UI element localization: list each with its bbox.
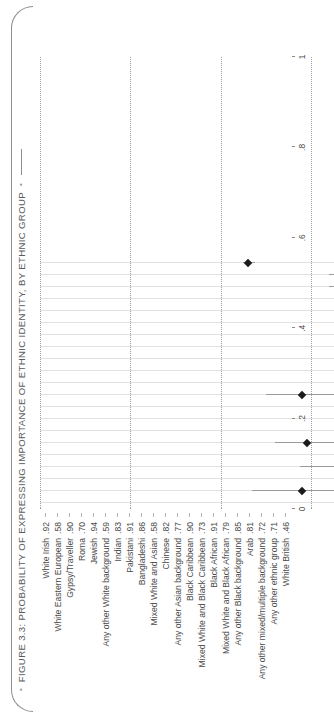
category-rowline xyxy=(40,262,334,263)
category-value-label: .77 xyxy=(173,522,183,534)
category-label-row: Any other Black background.85 xyxy=(232,513,243,709)
category-rowline xyxy=(40,334,334,335)
category-value-label: .90 xyxy=(65,522,75,534)
x-axis: 0.2.4.6.81 xyxy=(292,57,318,509)
category-value-label: .58 xyxy=(149,522,159,534)
category-label-row: White Irish.92 xyxy=(40,513,51,709)
category-label-row: White Eastern European.58 xyxy=(52,513,63,709)
category-rowline xyxy=(40,346,334,347)
category-rowline xyxy=(40,370,334,371)
category-label-row: Bangladeshi.86 xyxy=(136,513,147,709)
category-tick xyxy=(225,513,226,517)
category-value-label: .58 xyxy=(53,522,63,534)
axis-tick xyxy=(292,418,295,419)
category-value-label: .72 xyxy=(257,522,267,534)
category-tick xyxy=(57,513,58,517)
category-value-label: .91 xyxy=(125,522,135,534)
category-tick xyxy=(93,513,94,517)
category-rowline xyxy=(40,454,334,455)
category-label-row: Chinese.82 xyxy=(160,513,171,709)
category-name: Mixed White and Black Caribbean xyxy=(197,538,207,667)
category-tick xyxy=(45,513,46,517)
point-estimate-marker[interactable] xyxy=(244,259,252,267)
category-name: Any other Black background xyxy=(233,538,243,646)
category-name: Any other Asian background xyxy=(173,538,183,646)
axis-tick-label: .6 xyxy=(297,234,307,241)
category-tick xyxy=(189,513,190,517)
category-value-label: .86 xyxy=(137,522,147,534)
category-value-label: .79 xyxy=(221,522,231,534)
category-name: Black Caribbean xyxy=(185,538,195,601)
category-tick xyxy=(69,513,70,517)
category-label-row: White British.46 xyxy=(280,513,291,709)
axis-tick xyxy=(292,146,295,147)
category-value-label: .73 xyxy=(197,522,207,534)
category-label-row: Mixed White and Asian.58 xyxy=(148,513,159,709)
category-tick xyxy=(237,513,238,517)
category-rowline xyxy=(40,298,334,299)
category-tick xyxy=(141,513,142,517)
category-tick xyxy=(285,513,286,517)
category-value-label: .90 xyxy=(185,522,195,534)
axis-tick-label: .8 xyxy=(297,144,307,151)
category-name: Bangladeshi xyxy=(137,538,147,585)
category-label-column: White Irish.92White Eastern European.58G… xyxy=(40,513,292,709)
category-value-label: .82 xyxy=(161,522,171,534)
category-value-label: .92 xyxy=(41,522,51,534)
category-name: Mixed White and Asian xyxy=(149,538,159,625)
axis-tick xyxy=(292,327,295,328)
category-name: Any other mixed/multiple background xyxy=(257,538,267,679)
category-name: Mixed White and Black African xyxy=(221,538,231,654)
category-label-row: Indian.83 xyxy=(112,513,123,709)
category-tick xyxy=(273,513,274,517)
confidence-interval xyxy=(329,286,334,287)
category-name: Indian xyxy=(113,538,123,561)
axis-tick-label: .4 xyxy=(297,325,307,332)
category-value-label: .91 xyxy=(209,522,219,534)
category-name: White Irish xyxy=(41,538,51,579)
figure-page: • FIGURE 3.3: PROBABILITY OF EXPRESSING … xyxy=(0,0,334,718)
category-name: Jewish xyxy=(89,538,99,564)
axis-tick-label: 0 xyxy=(297,507,307,512)
figure-title: FIGURE 3.3: PROBABILITY OF EXPRESSING IM… xyxy=(16,192,27,682)
category-label-row: Pakistani.91 xyxy=(124,513,135,709)
axis-tick xyxy=(292,508,295,509)
category-name: Any other ethnic group xyxy=(269,538,279,624)
category-tick xyxy=(129,513,130,517)
category-label-row: Any other mixed/multiple background.72 xyxy=(256,513,267,709)
category-rowline xyxy=(40,358,334,359)
figure-title-row: • FIGURE 3.3: PROBABILITY OF EXPRESSING … xyxy=(12,27,30,691)
category-label-row: Mixed White and Black African.79 xyxy=(220,513,231,709)
axis-tick xyxy=(292,237,295,238)
category-value-label: .70 xyxy=(77,522,87,534)
category-rowline xyxy=(40,466,334,467)
plot-area: White Irish.92White Eastern European.58G… xyxy=(40,9,322,709)
title-rule xyxy=(21,149,22,175)
title-bullet-icon: • xyxy=(17,688,25,691)
title-trailing-bullet-icon: • xyxy=(17,183,25,186)
category-tick xyxy=(201,513,202,517)
category-value-label: .81 xyxy=(245,522,255,534)
axis-tick-label: 1 xyxy=(297,55,307,60)
category-rowline xyxy=(40,478,334,479)
category-label-row: Any other Asian background.77 xyxy=(172,513,183,709)
axis-tick xyxy=(292,56,295,57)
category-value-label: .59 xyxy=(101,522,111,534)
category-label-row: Black African.91 xyxy=(208,513,219,709)
category-value-label: .83 xyxy=(113,522,123,534)
category-rowline xyxy=(40,418,334,419)
category-rowline xyxy=(40,310,334,311)
category-name: Arab xyxy=(245,538,255,556)
category-name: White British xyxy=(281,538,291,586)
chart-canvas xyxy=(40,57,292,509)
category-value-label: .94 xyxy=(89,522,99,534)
category-rowline xyxy=(40,502,334,503)
category-tick xyxy=(81,513,82,517)
category-label-row: Jewish.94 xyxy=(88,513,99,709)
category-tick xyxy=(261,513,262,517)
category-name: White Eastern European xyxy=(53,538,63,632)
category-name: Black African xyxy=(209,538,219,588)
category-name: Pakistani xyxy=(125,538,135,573)
category-tick xyxy=(117,513,118,517)
confidence-interval xyxy=(329,274,334,275)
